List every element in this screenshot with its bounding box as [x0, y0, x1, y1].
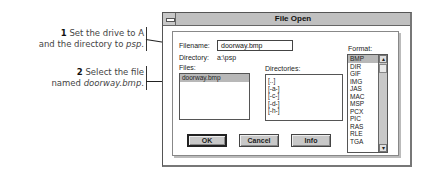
callout-bar-2 — [146, 66, 147, 90]
format-label: Format: — [348, 45, 372, 53]
scroll-up-arrow-icon[interactable]: ▴ — [379, 55, 387, 63]
list-item-directory[interactable]: [..] — [266, 77, 342, 85]
title-bar[interactable]: File Open — [163, 13, 410, 26]
list-item-directory[interactable]: [-d-] — [266, 100, 342, 108]
filename-label: Filename: — [179, 42, 210, 50]
list-item-directory[interactable]: [-h-] — [266, 107, 342, 115]
files-label: Files: — [179, 64, 196, 72]
cancel-button[interactable]: Cancel — [239, 134, 279, 147]
ok-button[interactable]: OK — [187, 134, 227, 147]
scroll-thumb[interactable] — [379, 64, 387, 73]
format-list[interactable]: BMP DIR GIF IMG JAS MAC MSP PCX PIC RAS … — [347, 54, 388, 153]
directories-label: Directories: — [265, 65, 300, 73]
files-list[interactable]: doorway.bmp — [179, 73, 250, 120]
directories-list[interactable]: [..] [-a-] [-c-] [-d-] [-h-] — [265, 74, 343, 121]
callout-step-1: 1 Set the drive to A and the directory t… — [39, 28, 144, 50]
list-item-directory[interactable]: [-c-] — [266, 92, 342, 100]
info-button[interactable]: Info — [291, 134, 331, 147]
directory-label: Directory: — [179, 54, 209, 62]
callout-step-number: 2 — [77, 67, 83, 77]
dialog-title: File Open — [176, 13, 410, 25]
list-item-directory[interactable]: [-a-] — [266, 85, 342, 93]
callout-step-number: 1 — [61, 28, 67, 38]
file-open-dialog: File Open Filename: doorway.bmp Director… — [162, 12, 412, 167]
system-menu-icon[interactable] — [163, 13, 176, 25]
callout-step-2: 2 Select the file named doorway.bmp. — [51, 67, 144, 89]
list-item-format[interactable]: BMP — [348, 55, 378, 63]
filename-input[interactable]: doorway.bmp — [217, 40, 293, 51]
format-scrollbar[interactable]: ▴ ▾ — [378, 55, 387, 152]
list-item-file[interactable]: doorway.bmp — [180, 74, 249, 82]
dialog-body: Filename: doorway.bmp Directory: a:\psp … — [172, 31, 399, 156]
scroll-down-arrow-icon[interactable]: ▾ — [379, 144, 387, 152]
directory-value: a:\psp — [217, 54, 236, 62]
